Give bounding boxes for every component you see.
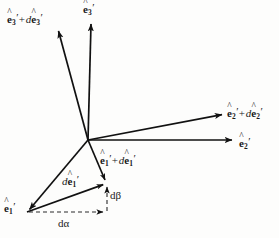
- label-e3-prime: e^3′: [83, 4, 94, 15]
- label-d-beta: dβ: [110, 190, 121, 201]
- vector-e2-prime-plus-de2-prime: [88, 115, 222, 140]
- vector-e3-prime: [88, 24, 91, 140]
- vector-canvas: [0, 0, 279, 238]
- label-e1-prime-plus-de1-prime: e^1′+de^1′: [100, 155, 136, 166]
- label-e2-prime-plus-de2-prime: e^2′+de^2′: [227, 108, 263, 119]
- label-e3-prime-plus-de3-prime: e^3′+de^3′: [7, 14, 43, 25]
- vector-e3-prime-plus-de3-prime: [59, 31, 89, 140]
- label-de1-prime: de^1′: [62, 176, 79, 187]
- label-e1-prime: e^1′: [4, 203, 15, 214]
- vector-e1-prime: [30, 140, 89, 210]
- label-e2-prime: e^2′: [239, 138, 250, 149]
- vector-diagram-figure: e^3′+de^3′ e^3′ e^2′+de^2′ e^2′ e^1′+de^…: [0, 0, 279, 238]
- label-d-alpha: dα: [58, 218, 69, 229]
